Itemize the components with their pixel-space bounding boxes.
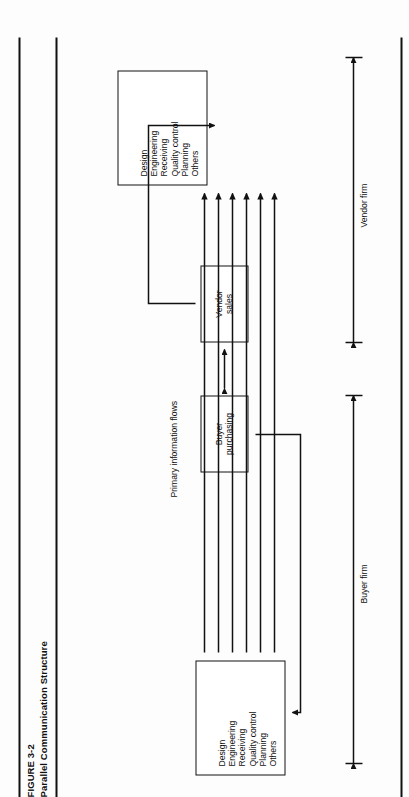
bottom-rule: [400, 37, 402, 797]
connectors-layer: [0, 0, 409, 797]
buyer-firm-label: Buyer firm: [358, 564, 368, 603]
figure-page: FIGURE 3-2 Parallel Communication Struct…: [0, 0, 409, 797]
purchasing-to-buyer-depts-connector: [255, 434, 300, 712]
rotated-figure-canvas: FIGURE 3-2 Parallel Communication Struct…: [0, 0, 409, 797]
primary-information-flows-label: Primary information flows: [168, 401, 178, 497]
vendor-firm-label: Vendor firm: [358, 183, 368, 227]
primary-information-flow-lines: [204, 193, 274, 652]
